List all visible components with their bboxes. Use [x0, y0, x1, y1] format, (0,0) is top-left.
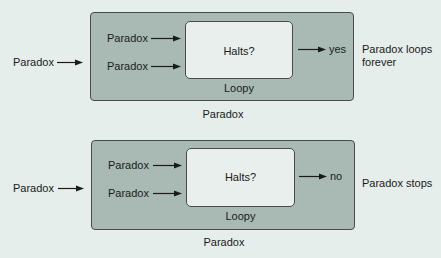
caption: Paradox [185, 108, 261, 121]
inner-input-label-2: Paradox [107, 60, 148, 73]
result-line-1: Paradox loops [362, 43, 432, 56]
inner-input-arrow-1 [151, 35, 181, 42]
output-arrow [298, 46, 326, 53]
inner-input-arrow-1 [153, 162, 182, 169]
machine-label: Loopy [185, 82, 293, 95]
input-arrow [57, 59, 83, 66]
result-line-1: Paradox stops [362, 177, 432, 190]
output-label: yes [329, 43, 346, 56]
inner-input-label-2: Paradox [108, 187, 149, 200]
input-arrow [58, 185, 84, 192]
caption: Paradox [186, 236, 262, 249]
output-arrow [299, 173, 327, 180]
machine-label: Loopy [186, 210, 295, 223]
decider-label: Halts? [185, 45, 293, 58]
inner-input-arrow-2 [153, 190, 182, 197]
input-label: Paradox [13, 182, 54, 195]
inner-input-label-1: Paradox [108, 159, 149, 172]
result-line-2: forever [362, 56, 396, 69]
output-label: no [330, 170, 342, 183]
inner-input-arrow-2 [151, 63, 181, 70]
decider-label: Halts? [186, 171, 295, 184]
inner-input-label-1: Paradox [107, 32, 148, 45]
input-label: Paradox [13, 56, 54, 69]
